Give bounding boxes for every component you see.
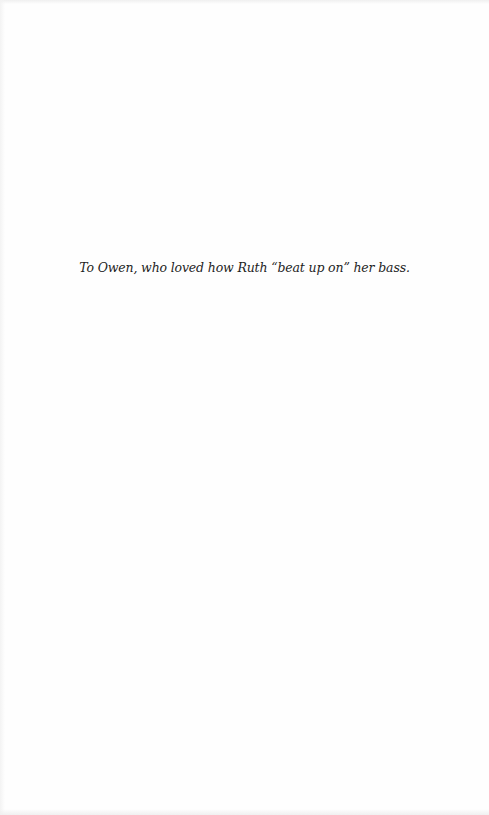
scan-edge-left	[0, 0, 5, 815]
dedication-text: To Owen, who loved how Ruth “beat up on”…	[0, 258, 489, 278]
scan-edge-top	[0, 0, 489, 4]
book-page: To Owen, who loved how Ruth “beat up on”…	[0, 0, 489, 815]
scan-edge-bottom	[0, 809, 489, 815]
